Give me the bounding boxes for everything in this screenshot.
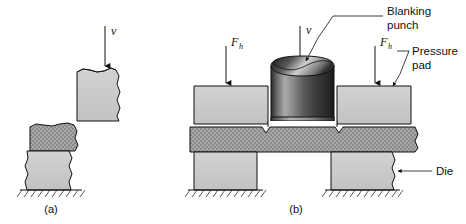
fh-left-subscript: h [239,42,243,51]
velocity-arrow-a: v [105,24,117,66]
lower-die-block-a [25,151,72,190]
pressure-pad-right [337,86,411,124]
blanking-punch-leader [306,16,383,61]
velocity-label-b: v [306,23,312,37]
sheet-metal-b [190,127,418,152]
ground-hatching-a [17,190,85,197]
ground-a [17,190,85,197]
caption-a: (a) [44,203,57,215]
holding-force-left: F h [226,35,243,83]
pressure-pad-label-line2: pad [412,59,431,71]
ground-hatching-b-right [322,190,403,197]
ground-hatching-b-left [185,190,266,197]
caption-b: (b) [289,203,302,215]
fh-right-label: F [379,35,388,49]
pressure-pad-left [194,86,268,124]
pressure-pad-label-line1: Pressure [412,45,458,57]
sheet-metal-a [30,123,78,151]
holding-force-right: F h [375,35,392,83]
die-right [331,152,395,190]
blanking-figure: v (a) [0,0,466,224]
panel-b: F h v F h [185,5,458,215]
blanking-punch [271,56,334,121]
die-left [194,152,257,190]
upper-punch-block-a [77,68,120,121]
panel-a: v (a) [17,24,120,215]
fh-left-label: F [230,35,239,49]
blanking-punch-label-line2: punch [387,19,418,31]
punch-top-ellipse [271,56,334,76]
blanking-punch-label-line1: Blanking [387,5,431,17]
figure-canvas: v (a) [0,0,466,224]
ground-b-left [185,190,266,197]
fh-right-subscript: h [388,42,392,51]
callout-pressure-pad: Pressure pad [393,45,458,86]
die-label: Die [436,165,453,177]
callout-die: Die [398,165,453,177]
velocity-label-a: v [111,24,117,38]
pressure-pad-leader [393,51,409,86]
punch-bottom-band [271,117,334,121]
ground-b-right [322,190,403,197]
punch-clearance-gap [268,121,337,127]
